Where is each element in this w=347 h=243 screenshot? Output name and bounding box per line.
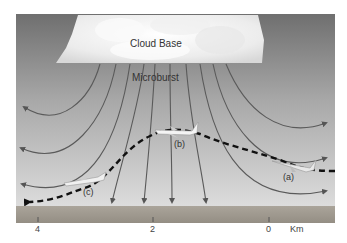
axis-tick-4: 4 xyxy=(35,224,40,234)
axis-unit: Km xyxy=(290,224,304,234)
aircraft-label-a: (a) xyxy=(283,172,294,182)
microburst-label: Microburst xyxy=(132,72,179,83)
cloud-base-label: Cloud Base xyxy=(130,38,182,49)
aircraft-label-c: (c) xyxy=(83,187,94,197)
ground-band xyxy=(16,206,335,223)
aircraft-label-b: (b) xyxy=(174,139,185,149)
diagram-canvas xyxy=(0,0,347,243)
axis-tick-2: 2 xyxy=(150,224,155,234)
microburst-diagram: Cloud Base Microburst (a) (b) (c) 4 2 0 … xyxy=(0,0,347,243)
axis-tick-0: 0 xyxy=(266,224,271,234)
